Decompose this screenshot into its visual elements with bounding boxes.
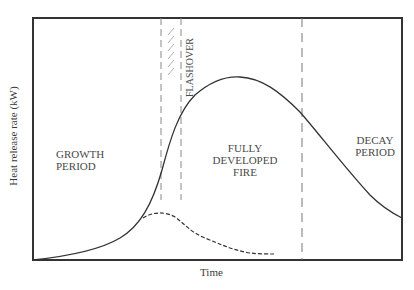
growth-period-label: GROWTH PERIOD: [56, 148, 104, 172]
x-axis-label: Time: [200, 266, 223, 278]
fully-developed-line1: FULLY: [205, 142, 285, 154]
growth-label-line1: GROWTH: [56, 148, 104, 160]
decay-period-label: DECAY PERIOD: [350, 134, 400, 158]
fully-developed-line3: FIRE: [205, 166, 285, 178]
y-axis-label: Heat release rate (kW): [7, 71, 19, 201]
decay-label-line2: PERIOD: [350, 146, 400, 158]
plot-frame: [33, 18, 402, 260]
flashover-hatch: [168, 28, 174, 75]
fully-developed-label: FULLY DEVELOPED FIRE: [205, 142, 285, 178]
fully-developed-line2: DEVELOPED: [205, 154, 285, 166]
fire-curve-dashed: [143, 213, 276, 254]
flashover-label: FLASHOVER: [184, 18, 195, 118]
decay-label-line1: DECAY: [350, 134, 400, 146]
growth-label-line2: PERIOD: [56, 160, 104, 172]
fire-development-diagram: Heat release rate (kW) Time GROWTH PERIO…: [0, 0, 414, 290]
